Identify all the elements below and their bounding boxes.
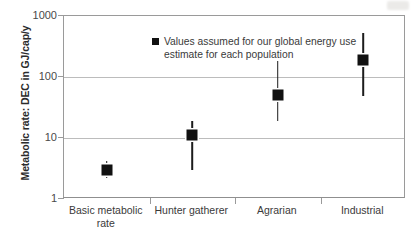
gridline-10: [64, 138, 404, 139]
scan-artifact: [387, 1, 409, 10]
plot-area: Values assumed for our global energy use…: [63, 15, 405, 198]
x-tick-label-0: Basic metabolic rate: [63, 204, 149, 230]
legend-label: Values assumed for our global energy use…: [164, 35, 397, 61]
y-tick-label-1: 1: [11, 192, 57, 204]
error-bar-1: [191, 121, 193, 170]
x-tick-label-1: Hunter gatherer: [149, 204, 235, 217]
data-point-marker-2[interactable]: [272, 90, 283, 101]
y-tick-label-10: 10: [11, 131, 57, 143]
filled-square-legend-icon: [152, 38, 159, 45]
metabolic-rate-chart: Metabolic rate: DEC in GJ/cap/y 11010010…: [0, 0, 415, 248]
y-tick-label-100: 100: [11, 70, 57, 82]
chart-legend: Values assumed for our global energy use…: [152, 35, 397, 61]
x-tick-label-3: Industrial: [320, 204, 406, 217]
data-point-marker-1[interactable]: [187, 130, 198, 141]
gridline-100: [64, 77, 404, 78]
data-point-marker-0[interactable]: [101, 164, 112, 175]
y-tick-mark-1: [58, 198, 64, 199]
y-axis-title: Metabolic rate: DEC in GJ/cap/y: [17, 0, 33, 208]
x-tick-label-2: Agrarian: [234, 204, 320, 217]
y-tick-label-1000: 1000: [11, 9, 57, 21]
